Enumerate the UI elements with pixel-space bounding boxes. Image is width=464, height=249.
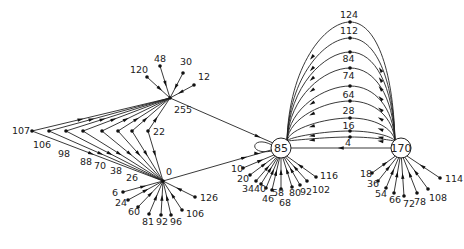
arrowhead-icon bbox=[257, 160, 263, 164]
arrowhead-icon bbox=[77, 118, 83, 121]
state-node bbox=[415, 191, 419, 195]
state-label: 54 bbox=[375, 188, 387, 199]
state-label: 30 bbox=[180, 56, 192, 67]
state-node bbox=[168, 96, 172, 100]
arrowhead-icon bbox=[106, 151, 112, 155]
state-label: 64 bbox=[343, 89, 355, 100]
arrowhead-icon bbox=[174, 84, 178, 90]
state-node bbox=[81, 129, 85, 133]
state-label: 28 bbox=[343, 105, 355, 116]
arrowhead-icon bbox=[153, 195, 157, 201]
transition-edge bbox=[32, 98, 170, 131]
state-label: 70 bbox=[94, 160, 106, 171]
state-node bbox=[116, 129, 120, 133]
state-label: 4 bbox=[345, 137, 351, 148]
arrowhead-icon bbox=[286, 168, 289, 174]
arrowhead-icon bbox=[163, 80, 166, 86]
state-node bbox=[47, 129, 51, 133]
state-node bbox=[438, 176, 442, 180]
arc-edge bbox=[287, 52, 350, 141]
arrowhead-icon bbox=[166, 195, 169, 201]
state-label: 92 bbox=[300, 186, 312, 197]
node-labels-layer: 1204830121071069888703826222550624608192… bbox=[12, 9, 463, 227]
state-label: 26 bbox=[126, 172, 138, 183]
state-label: 68 bbox=[279, 197, 291, 208]
state-label: 108 bbox=[429, 192, 447, 203]
arrowhead-icon bbox=[274, 170, 277, 176]
arrowhead-icon bbox=[377, 140, 383, 143]
state-node bbox=[348, 36, 352, 40]
state-node bbox=[180, 208, 184, 212]
transition-edge bbox=[83, 131, 163, 181]
arrowhead-icon bbox=[290, 167, 294, 173]
arrowhead-icon bbox=[171, 193, 176, 199]
state-label: 74 bbox=[343, 70, 355, 81]
state-transition-graph: 1204830121071069888703826222550624608192… bbox=[0, 0, 464, 249]
arc-edge bbox=[287, 131, 350, 141]
arrowhead-icon bbox=[110, 118, 116, 122]
arrowhead-icon bbox=[142, 189, 148, 193]
state-node bbox=[161, 179, 165, 183]
arc-edge bbox=[350, 38, 395, 141]
state-label: 92 bbox=[156, 216, 168, 227]
arc-edge bbox=[287, 86, 350, 141]
arrowhead-icon bbox=[143, 150, 148, 156]
state-label: 106 bbox=[33, 139, 51, 150]
arrowhead-icon bbox=[99, 118, 105, 121]
state-node bbox=[426, 187, 430, 191]
state-label: 66 bbox=[389, 194, 401, 205]
arrowhead-icon bbox=[420, 165, 426, 170]
arrowhead-icon bbox=[338, 146, 344, 149]
arrowhead-icon bbox=[176, 188, 182, 192]
state-label: 124 bbox=[340, 9, 358, 20]
state-label: 81 bbox=[142, 216, 154, 227]
state-label: 120 bbox=[130, 64, 148, 75]
arrowhead-icon bbox=[116, 151, 122, 156]
arrowhead-icon bbox=[97, 151, 103, 155]
state-label: 24 bbox=[115, 197, 127, 208]
state-label: 114 bbox=[445, 173, 463, 184]
transition-edge bbox=[118, 131, 163, 181]
arc-edge bbox=[350, 137, 395, 141]
state-label: 107 bbox=[12, 125, 30, 136]
state-label: 38 bbox=[110, 165, 122, 176]
state-label: 78 bbox=[414, 196, 426, 207]
arrowhead-icon bbox=[178, 89, 184, 93]
arrowhead-icon bbox=[254, 134, 260, 138]
state-label: 60 bbox=[128, 206, 140, 217]
state-label: 0 bbox=[166, 166, 172, 177]
state-label: 106 bbox=[186, 208, 204, 219]
transition-edge bbox=[49, 98, 170, 131]
state-node bbox=[193, 195, 197, 199]
state-label: 16 bbox=[343, 120, 355, 131]
state-node bbox=[348, 20, 352, 24]
state-node bbox=[192, 83, 196, 87]
arc-edge bbox=[287, 137, 350, 141]
state-label: 84 bbox=[343, 53, 355, 64]
state-node bbox=[348, 84, 352, 88]
state-node bbox=[181, 71, 185, 75]
arrowhead-icon bbox=[378, 128, 384, 132]
state-node bbox=[146, 129, 150, 133]
state-label: 98 bbox=[58, 148, 70, 159]
state-label: 48 bbox=[154, 53, 166, 64]
state-node bbox=[305, 179, 309, 183]
arrowhead-icon bbox=[88, 119, 94, 122]
arrowhead-icon bbox=[279, 169, 282, 175]
state-label: 255 bbox=[174, 104, 192, 115]
state-label: 102 bbox=[312, 184, 330, 195]
arrowhead-icon bbox=[241, 157, 247, 160]
arrowhead-icon bbox=[390, 169, 394, 175]
state-node bbox=[30, 129, 34, 133]
hub-label: 170 bbox=[391, 142, 412, 155]
transition-edge bbox=[32, 131, 163, 181]
state-node bbox=[158, 64, 162, 68]
state-node bbox=[314, 175, 318, 179]
state-label: 22 bbox=[153, 126, 165, 137]
state-label: 12 bbox=[198, 71, 210, 82]
hub-label: 85 bbox=[274, 142, 288, 155]
state-label: 88 bbox=[80, 156, 92, 167]
arc-edge bbox=[350, 52, 395, 141]
arrowhead-icon bbox=[153, 117, 158, 123]
arrowhead-icon bbox=[152, 150, 155, 156]
